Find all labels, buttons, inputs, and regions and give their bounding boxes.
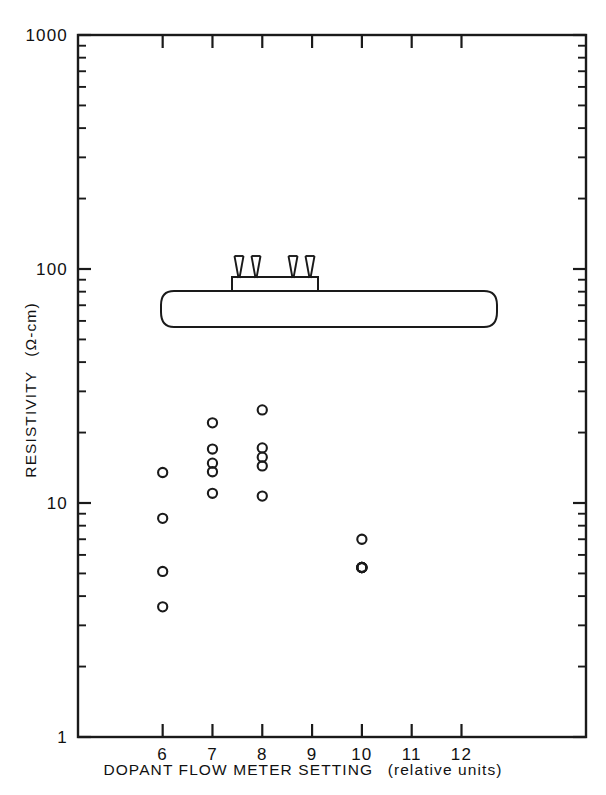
probe-needle-4 [306, 256, 315, 278]
axes-border [78, 35, 586, 737]
x-axis-ticks [163, 35, 462, 737]
y-tick-label: 1 [57, 728, 68, 747]
probe-needle-1 [235, 256, 244, 278]
x-axis-title: DOPANT FLOW METER SETTING (relative unit… [103, 761, 502, 778]
data-point-group [158, 405, 366, 611]
data-point [208, 418, 217, 427]
data-point [258, 443, 267, 452]
wafer-slab [161, 291, 497, 327]
data-point [158, 602, 167, 611]
y-axis-title: RESISTIVITY (Ω-cm) [22, 302, 39, 477]
data-point [158, 567, 167, 576]
y-tick-label: 1000 [25, 26, 68, 45]
probe-needle-3 [289, 256, 298, 278]
probe-needle-2 [252, 256, 261, 278]
probe-head-block [232, 277, 318, 291]
y-tick-label: 10 [47, 494, 68, 513]
data-point [258, 492, 267, 501]
plot-frame [78, 35, 586, 737]
data-point [158, 514, 167, 523]
data-point [208, 444, 217, 453]
data-point [158, 468, 167, 477]
scatter-plot: 1000100101 6789101112 [0, 0, 606, 795]
figure-container: 1000100101 6789101112 [0, 0, 606, 795]
data-point [208, 489, 217, 498]
data-point [258, 405, 267, 414]
y-tick-label: 100 [36, 260, 68, 279]
four-point-probe-diagram [161, 256, 497, 327]
data-point [357, 535, 366, 544]
y-axis-ticks [78, 35, 586, 737]
data-point [357, 563, 366, 572]
